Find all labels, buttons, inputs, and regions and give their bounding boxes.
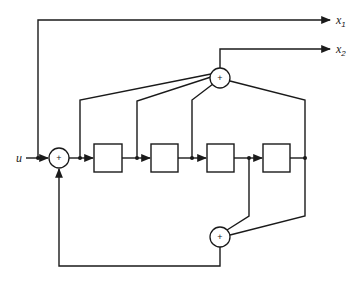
output-x2-wire [220,49,330,68]
plus-icon: + [217,232,222,242]
plus-icon: + [56,153,61,163]
feedback-wire [59,169,220,266]
delay-element-3 [207,144,234,172]
upper-adder: + [210,68,230,88]
output-x1-label: x1 [335,13,346,29]
delay-element-2 [151,144,178,172]
encoder-diagram: u x1 + + x2 + [0,0,349,283]
delay-element-4 [263,144,290,172]
delay-element-1 [94,144,122,172]
input-adder: + [49,148,69,168]
lower-adder: + [210,227,230,247]
output-x2-label: x2 [335,42,346,58]
output-x1-wire [38,20,330,158]
input-label-u: u [16,151,22,165]
plus-icon: + [217,73,222,83]
